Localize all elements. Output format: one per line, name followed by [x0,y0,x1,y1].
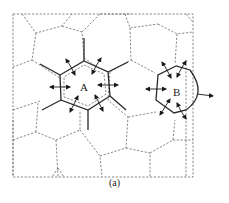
frame [13,14,193,177]
figure-caption: (a) [0,177,229,188]
grain-a: A [40,38,128,130]
grain-boundary-network [13,14,193,177]
grain-a-label: A [80,81,88,93]
grain-diagram: A B [0,0,229,203]
grain-b: B [146,61,213,119]
grain-b-label: B [173,86,180,98]
